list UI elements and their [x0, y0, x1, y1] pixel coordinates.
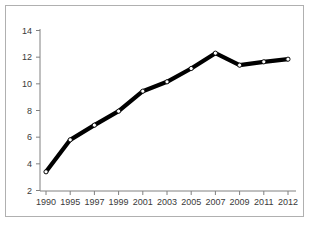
data-point-marker: [189, 66, 193, 70]
x-tick-label: 1990: [36, 198, 56, 207]
data-point-marker: [262, 60, 266, 64]
y-tick-label: 8: [12, 106, 32, 115]
data-point-marker: [92, 123, 96, 127]
y-tick-label: 12: [12, 53, 32, 62]
x-axis-ticks: [46, 191, 288, 195]
y-tick-label: 4: [12, 159, 32, 168]
line-chart-plot: [0, 0, 314, 226]
x-tick-label: 1999: [109, 198, 129, 207]
data-point-marker: [117, 109, 121, 113]
x-tick-label: 2007: [205, 198, 225, 207]
x-tick-label: 2003: [157, 198, 177, 207]
y-tick-label: 6: [12, 133, 32, 142]
y-axis-ticks: [36, 31, 40, 191]
data-point-marker: [238, 63, 242, 67]
x-tick-label: 2001: [133, 198, 153, 207]
data-point-markers: [44, 51, 290, 174]
data-point-marker: [68, 138, 72, 142]
data-point-marker: [44, 170, 48, 174]
x-tick-label: 2005: [181, 198, 201, 207]
y-tick-label: 2: [12, 186, 32, 195]
data-point-marker: [286, 57, 290, 61]
data-series-line: [46, 53, 288, 172]
data-point-marker: [213, 51, 217, 55]
x-tick-label: 1997: [84, 198, 104, 207]
y-tick-label: 10: [12, 79, 32, 88]
x-tick-label: 2011: [254, 198, 273, 207]
x-tick-label: 2012: [278, 198, 298, 207]
data-point-marker: [141, 89, 145, 93]
x-tick-label: 2009: [230, 198, 250, 207]
y-tick-label: 14: [12, 26, 32, 35]
chart-figure: 2468101214 19901995199719992001200320052…: [0, 0, 314, 226]
data-point-marker: [165, 80, 169, 84]
x-tick-label: 1995: [60, 198, 80, 207]
